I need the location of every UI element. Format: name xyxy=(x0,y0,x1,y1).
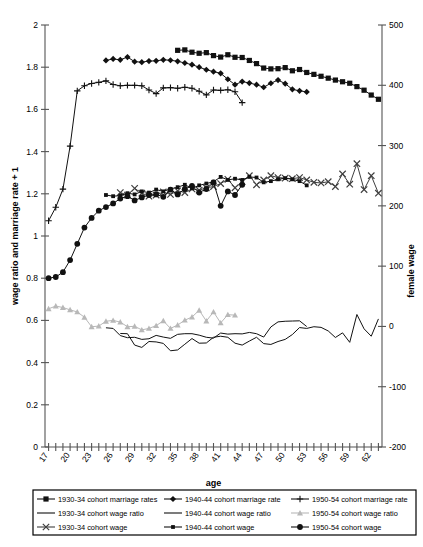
data-point xyxy=(189,62,195,68)
data-point xyxy=(132,198,138,204)
x-ticklabel: 23 xyxy=(80,450,94,464)
data-point xyxy=(361,186,367,192)
data-point xyxy=(175,48,180,53)
data-point xyxy=(347,81,352,86)
data-point xyxy=(67,143,73,149)
series-mar4044 xyxy=(103,54,310,95)
data-point xyxy=(253,182,259,188)
data-point xyxy=(131,185,137,191)
data-point xyxy=(290,177,294,181)
data-point xyxy=(182,47,187,52)
data-point xyxy=(203,186,209,192)
data-point xyxy=(139,59,145,65)
data-point xyxy=(103,204,109,210)
y-axis-left-title: wage ratio and marriage rate + 1 xyxy=(10,167,20,306)
data-point xyxy=(246,80,252,86)
data-point xyxy=(225,188,231,194)
data-point xyxy=(203,92,209,98)
data-point xyxy=(53,204,59,210)
data-point xyxy=(197,51,202,56)
series-line xyxy=(106,321,307,340)
series-mar5054 xyxy=(45,78,245,224)
data-point xyxy=(304,89,310,95)
y-ticklabel-left: 1.2 xyxy=(26,189,38,199)
data-point xyxy=(88,80,94,86)
data-point xyxy=(46,275,52,281)
data-point xyxy=(103,57,109,63)
x-ticklabel: 41 xyxy=(209,450,223,464)
legend-label: 1930-34 cohort wage xyxy=(58,523,127,532)
data-point xyxy=(269,179,273,183)
data-point xyxy=(161,189,165,193)
data-point xyxy=(232,192,238,198)
data-point xyxy=(60,269,66,275)
x-ticklabel: 47 xyxy=(252,450,266,464)
legend-label: 1950-54 cohort marriage rate xyxy=(312,495,408,504)
data-point xyxy=(160,318,166,323)
data-point xyxy=(326,76,331,81)
data-point xyxy=(376,97,381,102)
data-point xyxy=(218,203,224,209)
data-point xyxy=(117,83,123,89)
data-point xyxy=(262,180,266,184)
data-point xyxy=(354,84,359,89)
data-point xyxy=(117,196,123,202)
data-point xyxy=(219,175,223,179)
data-point xyxy=(255,176,259,180)
data-point xyxy=(239,182,245,188)
data-point xyxy=(368,173,374,179)
x-ticklabel: 62 xyxy=(359,450,373,464)
data-point xyxy=(261,65,266,70)
data-point xyxy=(110,81,116,87)
data-point xyxy=(174,85,180,91)
data-point xyxy=(131,82,137,88)
data-point xyxy=(189,85,195,91)
data-point xyxy=(153,192,159,198)
y-ticklabel-left: 0.4 xyxy=(26,358,38,368)
x-ticklabel: 59 xyxy=(338,450,352,464)
data-point xyxy=(268,173,274,179)
data-point xyxy=(153,58,159,64)
legend-label: 1950-54 cohort wage ratio xyxy=(312,509,398,518)
data-point xyxy=(125,193,131,199)
data-point xyxy=(283,176,287,180)
y-ticklabel-left: 0 xyxy=(33,442,38,452)
data-point xyxy=(60,186,66,192)
data-point xyxy=(304,177,310,183)
data-point xyxy=(304,70,309,75)
y-ticklabel-right: -200 xyxy=(389,442,406,452)
data-point xyxy=(318,74,323,79)
x-ticklabel: 26 xyxy=(101,450,115,464)
y-ticklabel-left: 2 xyxy=(33,20,38,30)
data-point xyxy=(232,185,238,191)
y-ticklabel-left: 1.4 xyxy=(26,147,38,157)
data-point xyxy=(275,66,280,71)
data-point xyxy=(253,82,259,88)
data-point xyxy=(81,314,87,319)
data-point xyxy=(175,322,181,327)
data-point xyxy=(354,160,360,166)
x-ticklabel: 53 xyxy=(295,450,309,464)
data-point xyxy=(104,193,108,197)
y-axis-right-title: female wage xyxy=(406,244,416,298)
data-point xyxy=(283,65,288,70)
data-point xyxy=(217,87,223,93)
data-point xyxy=(160,194,166,200)
data-point xyxy=(211,179,217,185)
legend-label: 1930-34 cohort wage ratio xyxy=(58,509,144,518)
x-ticklabel: 56 xyxy=(316,450,330,464)
data-point xyxy=(275,77,281,83)
data-point xyxy=(96,208,102,214)
data-point xyxy=(154,188,158,192)
data-point xyxy=(298,179,302,183)
data-point xyxy=(210,87,216,93)
data-point xyxy=(182,84,188,90)
data-point xyxy=(74,241,80,247)
data-point xyxy=(196,307,202,312)
data-point xyxy=(233,177,237,181)
x-axis-title: age xyxy=(206,478,222,488)
series-line xyxy=(120,164,378,197)
data-point xyxy=(203,67,209,73)
data-point xyxy=(168,187,174,193)
data-point xyxy=(297,524,303,530)
